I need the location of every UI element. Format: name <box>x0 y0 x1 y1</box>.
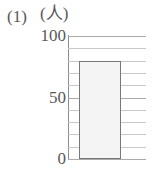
y-axis-tick-label: 0 <box>58 150 67 167</box>
figure-number-label: (1) <box>7 8 27 25</box>
y-axis-unit-label: (人) <box>40 5 68 22</box>
chart-figure: (1) (人) 100500 <box>0 0 155 178</box>
gridline <box>68 159 146 160</box>
y-axis-tick-label: 50 <box>49 89 66 106</box>
gridline <box>68 48 146 49</box>
gridline <box>68 36 146 37</box>
y-axis-tick-label: 100 <box>41 27 67 44</box>
bar <box>79 61 121 159</box>
